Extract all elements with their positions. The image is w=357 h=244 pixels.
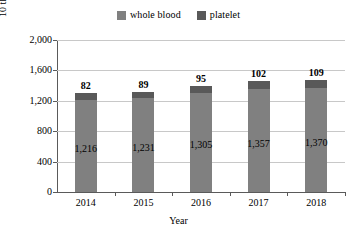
bar-label-platelet: 95 (196, 74, 206, 84)
y-tick-label: 800 (37, 126, 52, 136)
bar-label-whole-blood: 1,305 (190, 140, 213, 150)
y-tick-label: 1,600 (30, 65, 53, 75)
x-tick-mark (230, 192, 231, 196)
y-tick-label: 0 (47, 187, 52, 197)
y-axis-title: 10 thousand people (0, 0, 8, 48)
bar-group[interactable] (305, 80, 327, 192)
y-tick-mark (53, 40, 57, 41)
x-axis-line (57, 192, 345, 193)
x-tick-label: 2015 (133, 198, 153, 208)
y-tick-mark (53, 192, 57, 193)
x-tick-mark (172, 192, 173, 196)
bar-label-whole-blood: 1,216 (75, 144, 98, 154)
bar-label-platelet: 89 (138, 80, 148, 90)
y-tick-mark (53, 162, 57, 163)
bar-label-platelet: 109 (309, 68, 324, 78)
x-tick-mark (287, 192, 288, 196)
x-tick-label: 2017 (249, 198, 269, 208)
bar-segment-platelet[interactable] (132, 92, 154, 99)
legend-item-platelet: platelet (197, 10, 240, 20)
x-tick-label: 2014 (76, 198, 96, 208)
y-tick-mark (53, 131, 57, 132)
plot-area: 04008001,2001,6002,000 821,216891,231951… (57, 40, 345, 192)
y-tick-label: 1,200 (30, 96, 53, 106)
gridline (57, 40, 345, 41)
x-tick-label: 2018 (306, 198, 326, 208)
x-tick-label: 2016 (191, 198, 211, 208)
legend-swatch-platelet (197, 11, 206, 20)
bar-label-whole-blood: 1,231 (132, 143, 155, 153)
y-tick-mark (53, 70, 57, 71)
legend-swatch-whole-blood (117, 11, 126, 20)
chart-legend: whole blood platelet (0, 10, 357, 20)
legend-label-whole-blood: whole blood (130, 10, 181, 20)
y-tick-mark (53, 101, 57, 102)
bar-segment-platelet[interactable] (248, 81, 270, 89)
x-tick-mark (115, 192, 116, 196)
x-axis-title: Year (0, 216, 357, 226)
bar-segment-platelet[interactable] (190, 86, 212, 93)
y-tick-label: 2,000 (30, 35, 53, 45)
bar-label-whole-blood: 1,357 (247, 139, 270, 149)
y-axis-line (57, 40, 58, 192)
x-tick-mark (345, 192, 346, 196)
bar-segment-platelet[interactable] (305, 80, 327, 88)
bar-label-platelet: 82 (81, 81, 91, 91)
gridline (57, 70, 345, 71)
bar-label-platelet: 102 (251, 69, 266, 79)
legend-label-platelet: platelet (210, 10, 240, 20)
legend-item-whole-blood: whole blood (117, 10, 181, 20)
bar-label-whole-blood: 1,370 (305, 138, 328, 148)
y-tick-label: 400 (37, 157, 52, 167)
